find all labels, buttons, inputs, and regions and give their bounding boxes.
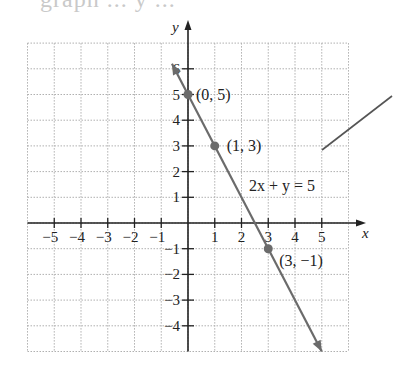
axes — [28, 20, 367, 352]
x-tick-label: 5 — [318, 229, 326, 245]
y-tick-label: −4 — [164, 318, 180, 334]
line-2x-plus-y-eq-5 — [172, 64, 322, 352]
x-tick-label: −4 — [69, 229, 85, 245]
data-point — [184, 90, 193, 99]
y-tick-label: −1 — [164, 241, 180, 257]
x-tick-label: −3 — [96, 229, 112, 245]
x-tick-label: 2 — [238, 229, 246, 245]
callout-pointer-line — [322, 96, 392, 150]
y-tick-label: 2 — [173, 164, 181, 180]
point-label: (0, 5) — [196, 86, 231, 104]
x-tick-label: −1 — [149, 229, 165, 245]
x-axis-label: x — [361, 225, 369, 241]
equation-label: 2x + y = 5 — [249, 177, 315, 195]
x-tick-label: 4 — [291, 229, 299, 245]
y-tick-label: 1 — [173, 189, 181, 205]
y-tick-label: 3 — [173, 138, 181, 154]
y-tick-label: 5 — [173, 87, 181, 103]
y-tick-label: 4 — [173, 112, 181, 128]
data-point — [210, 141, 219, 150]
equation-line — [172, 64, 322, 352]
data-point — [264, 244, 273, 253]
y-tick-label: −2 — [164, 266, 180, 282]
x-tick-label: −5 — [42, 229, 58, 245]
y-axis-arrow-icon — [185, 20, 192, 30]
point-label: (3, −1) — [279, 252, 323, 270]
y-axis-label: y — [170, 19, 179, 35]
point-label: (1, 3) — [227, 137, 262, 155]
x-tick-label: −2 — [123, 229, 139, 245]
y-tick-label: −3 — [164, 292, 180, 308]
x-tick-label: 1 — [211, 229, 219, 245]
line-graph: −5−4−3−2−112345−4−3−2−1123456 (0, 5)(1, … — [0, 0, 395, 375]
